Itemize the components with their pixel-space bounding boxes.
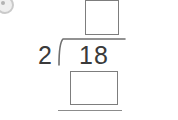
remainder-answer-box[interactable]: [70, 71, 118, 105]
subtraction-rule: [58, 110, 122, 111]
quotient-answer-box[interactable]: [85, 0, 119, 35]
long-division-worksheet: 2 18: [0, 0, 178, 120]
dividend-value: 18: [79, 43, 109, 68]
watermark-fragment-icon: [0, 0, 14, 14]
divisor-value: 2: [38, 43, 53, 68]
